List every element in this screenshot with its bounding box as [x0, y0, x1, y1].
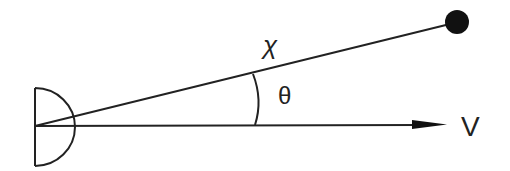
distance-label: χ — [261, 30, 278, 60]
velocity-vector-line — [35, 125, 420, 126]
diagram-canvas: χ θ V — [0, 0, 510, 171]
angle-label: θ — [278, 82, 291, 109]
angle-arc — [253, 74, 259, 125]
observer-half-disc — [35, 88, 75, 166]
target-dot — [445, 10, 469, 34]
arrowhead-icon — [412, 120, 447, 129]
line-of-sight — [35, 24, 450, 126]
velocity-label: V — [461, 111, 480, 142]
